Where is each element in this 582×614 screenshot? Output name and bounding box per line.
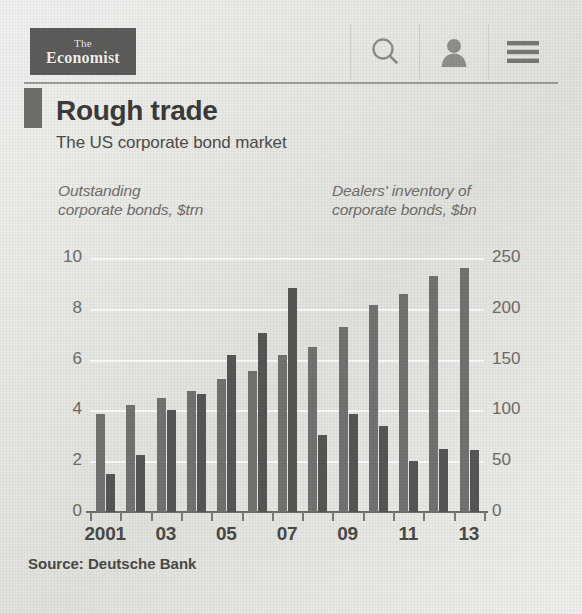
bar-dealers-inventory bbox=[106, 474, 115, 512]
bar-dealers-inventory bbox=[379, 426, 388, 512]
bar-group bbox=[339, 258, 358, 512]
bar-dealers-inventory bbox=[258, 333, 267, 512]
bar-group bbox=[96, 258, 115, 512]
x-axis-tick bbox=[90, 512, 92, 521]
x-axis-tick bbox=[242, 512, 244, 521]
x-axis-tick bbox=[120, 512, 122, 521]
bar-dealers-inventory bbox=[288, 288, 297, 512]
paper-texture-overlay bbox=[0, 0, 582, 614]
x-axis-tick-label: 2001 bbox=[75, 523, 135, 545]
x-axis-tick bbox=[363, 512, 365, 521]
bar-outstanding-bonds bbox=[429, 276, 438, 512]
gridline bbox=[90, 258, 484, 260]
right-axis-caption-line2: corporate bonds, $bn bbox=[332, 201, 477, 220]
bar-group bbox=[369, 258, 388, 512]
user-icon bbox=[439, 36, 469, 68]
bar-outstanding-bonds bbox=[308, 347, 317, 512]
bar-group bbox=[126, 258, 145, 512]
source-note: Source: Deutsche Bank bbox=[28, 555, 196, 572]
logo-line-2: Economist bbox=[46, 50, 120, 66]
left-axis-tick-label: 6 bbox=[48, 349, 82, 369]
right-axis-tick-label: 150 bbox=[492, 349, 536, 369]
bar-dealers-inventory bbox=[197, 394, 206, 512]
bar-outstanding-bonds bbox=[248, 371, 257, 512]
x-axis-tick bbox=[393, 512, 395, 521]
bar-dealers-inventory bbox=[227, 355, 236, 512]
bar-group bbox=[187, 258, 206, 512]
x-axis-tick-label: 13 bbox=[439, 523, 499, 545]
bar-outstanding-bonds bbox=[339, 327, 348, 512]
gridline bbox=[90, 309, 484, 311]
logo-line-1: The bbox=[74, 38, 92, 49]
right-axis-tick-label: 100 bbox=[492, 399, 536, 419]
bar-outstanding-bonds bbox=[278, 355, 287, 512]
gridline bbox=[90, 410, 484, 412]
page-subtitle: The US corporate bond market bbox=[56, 133, 287, 153]
bar-dealers-inventory bbox=[409, 461, 418, 512]
left-axis-tick-label: 0 bbox=[48, 501, 82, 521]
left-axis-caption: Outstanding corporate bonds, $trn bbox=[58, 182, 203, 220]
x-axis-tick bbox=[272, 512, 274, 521]
x-axis-tick bbox=[454, 512, 456, 521]
bar-outstanding-bonds bbox=[217, 379, 226, 512]
bar-outstanding-bonds bbox=[369, 305, 378, 512]
bar-dealers-inventory bbox=[349, 414, 358, 512]
bar-dealers-inventory bbox=[470, 450, 479, 512]
plot-area bbox=[90, 258, 484, 512]
x-axis-tick bbox=[181, 512, 183, 521]
bar-group bbox=[278, 258, 297, 512]
bar-group bbox=[460, 258, 479, 512]
account-button[interactable] bbox=[419, 24, 488, 80]
bar-outstanding-bonds bbox=[399, 294, 408, 512]
bar-dealers-inventory bbox=[439, 449, 448, 512]
right-axis-tick-label: 200 bbox=[492, 298, 536, 318]
search-button[interactable] bbox=[350, 24, 419, 80]
left-axis-tick-label: 2 bbox=[48, 450, 82, 470]
right-axis-tick-label: 50 bbox=[492, 450, 536, 470]
bar-dealers-inventory bbox=[318, 435, 327, 512]
x-axis-tick bbox=[484, 512, 486, 521]
menu-button[interactable] bbox=[488, 24, 558, 80]
right-axis-caption: Dealers' inventory of corporate bonds, $… bbox=[332, 182, 477, 220]
x-axis-tick-row bbox=[90, 512, 484, 521]
x-axis-tick-label: 11 bbox=[378, 523, 438, 545]
x-axis-tick-label: 03 bbox=[136, 523, 196, 545]
bar-outstanding-bonds bbox=[460, 268, 469, 512]
bar-group bbox=[308, 258, 327, 512]
left-axis-tick-label: 8 bbox=[48, 298, 82, 318]
x-axis-tick-label: 09 bbox=[318, 523, 378, 545]
right-axis-caption-line1: Dealers' inventory of bbox=[332, 182, 477, 201]
bar-group bbox=[429, 258, 448, 512]
search-icon bbox=[368, 35, 402, 69]
bar-outstanding-bonds bbox=[157, 398, 166, 512]
bar-chart: 0246810 050100150200250 2001030507091113 bbox=[0, 0, 582, 614]
economist-logo[interactable]: The Economist bbox=[30, 28, 136, 75]
bar-group bbox=[399, 258, 418, 512]
gridline bbox=[90, 360, 484, 362]
page-title: Rough trade bbox=[56, 95, 218, 127]
gridline bbox=[90, 461, 484, 463]
economist-chart-page: The Economist bbox=[0, 0, 582, 614]
x-axis-tick bbox=[423, 512, 425, 521]
site-header: The Economist bbox=[24, 24, 558, 84]
x-axis-tick-label: 07 bbox=[257, 523, 317, 545]
x-axis-tick bbox=[151, 512, 153, 521]
left-axis-tick-label: 10 bbox=[48, 247, 82, 267]
bar-group bbox=[217, 258, 236, 512]
right-axis-tick-label: 0 bbox=[492, 501, 536, 521]
x-axis-tick bbox=[302, 512, 304, 521]
left-axis-tick-label: 4 bbox=[48, 399, 82, 419]
right-axis-tick-label: 250 bbox=[492, 247, 536, 267]
baseline-axis bbox=[86, 511, 488, 513]
x-axis-tick bbox=[332, 512, 334, 521]
bar-dealers-inventory bbox=[167, 410, 176, 512]
hamburger-menu-icon bbox=[506, 39, 540, 65]
x-axis-tick-label: 05 bbox=[196, 523, 256, 545]
bar-outstanding-bonds bbox=[187, 391, 196, 512]
bar-group bbox=[248, 258, 267, 512]
title-accent-bar bbox=[24, 88, 42, 128]
left-axis-caption-line2: corporate bonds, $trn bbox=[58, 201, 203, 220]
bar-outstanding-bonds bbox=[96, 414, 105, 512]
bar-outstanding-bonds bbox=[126, 405, 135, 512]
bar-dealers-inventory bbox=[136, 455, 145, 512]
